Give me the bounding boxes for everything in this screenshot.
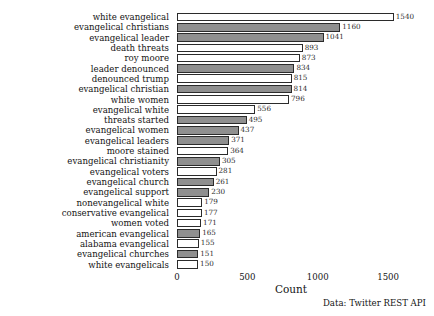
bar: [177, 33, 324, 42]
bar: [177, 229, 200, 238]
bar-value-label: 556: [257, 104, 271, 114]
bar-row: 177: [177, 208, 405, 218]
bar-row: 261: [177, 177, 405, 187]
bar-row: 165: [177, 229, 405, 239]
bar-row: 150: [177, 260, 405, 270]
bar-value-label: 165: [202, 228, 216, 238]
bar-value-label: 364: [230, 146, 244, 156]
y-axis-label: evangelical church: [0, 177, 172, 187]
bar: [177, 85, 292, 94]
bar: [177, 126, 239, 135]
y-axis-label: alabama evangelical: [0, 239, 172, 249]
x-axis-tick-label: 1000: [307, 272, 329, 282]
bar-value-label: 893: [305, 43, 319, 53]
bar-value-label: 371: [231, 135, 245, 145]
y-axis-label: evangelical leaders: [0, 136, 172, 146]
bar-row: 230: [177, 187, 405, 197]
bar-value-label: 281: [219, 166, 233, 176]
bar-row: 815: [177, 74, 405, 84]
bar-value-label: 171: [203, 218, 217, 228]
bar-row: 814: [177, 84, 405, 94]
bar-row: 371: [177, 136, 405, 146]
bar: [177, 219, 201, 228]
y-axis-label: evangelical christianity: [0, 156, 172, 166]
x-axis-title: Count: [177, 283, 405, 295]
bar: [177, 13, 394, 22]
bar: [177, 23, 340, 32]
bar-row: 893: [177, 43, 405, 53]
y-axis-label: evangelical churches: [0, 249, 172, 259]
y-axis-category-labels: white evangelicalevangelical christianse…: [0, 12, 172, 270]
bar-row: 834: [177, 64, 405, 74]
y-axis-label: white evangelical: [0, 12, 172, 22]
y-axis-label: threats started: [0, 115, 172, 125]
bar: [177, 209, 202, 218]
bar-row: 179: [177, 198, 405, 208]
bar-value-label: 150: [200, 259, 214, 269]
bar-value-label: 1160: [342, 22, 360, 32]
y-axis-label: evangelical support: [0, 187, 172, 197]
bar: [177, 54, 300, 63]
bar-value-label: 177: [204, 208, 218, 218]
bar-row: 305: [177, 156, 405, 166]
y-axis-label: white women: [0, 95, 172, 105]
bar-row: 796: [177, 95, 405, 105]
plot-area: 1540116010418938738348158147965564954373…: [177, 12, 405, 270]
bar: [177, 239, 199, 248]
x-axis-tick-label: 0: [174, 272, 179, 282]
bar-row: 364: [177, 146, 405, 156]
bar: [177, 74, 292, 83]
bar: [177, 95, 289, 104]
bar-rows: 1540116010418938738348158147965564954373…: [177, 12, 405, 270]
bar-row: 155: [177, 239, 405, 249]
y-axis-label: evangelical women: [0, 125, 172, 135]
bar-value-label: 230: [211, 187, 225, 197]
bar: [177, 147, 228, 156]
y-axis-label: denounced trump: [0, 74, 172, 84]
bar: [177, 116, 247, 125]
bar-value-label: 834: [296, 63, 310, 73]
bar-row: 1160: [177, 22, 405, 32]
x-axis-tick-label: 1500: [377, 272, 399, 282]
bar: [177, 157, 220, 166]
bar: [177, 260, 198, 269]
y-axis-label: american evangelical: [0, 229, 172, 239]
bar-row: 171: [177, 218, 405, 228]
bar-row: 1540: [177, 12, 405, 22]
y-axis-label: women voted: [0, 218, 172, 228]
y-axis-label: leader denounced: [0, 64, 172, 74]
y-axis-label: evangelical leader: [0, 33, 172, 43]
bar: [177, 44, 303, 53]
bar-value-label: 437: [241, 125, 255, 135]
bar-value-label: 814: [294, 84, 308, 94]
y-axis-label: evangelical christian: [0, 84, 172, 94]
y-axis-label: moore stained: [0, 146, 172, 156]
bar-row: 495: [177, 115, 405, 125]
bar-value-label: 495: [249, 115, 263, 125]
bar-chart: white evangelicalevangelical christianse…: [0, 0, 434, 316]
bar-row: 151: [177, 249, 405, 259]
bar-value-label: 305: [222, 156, 236, 166]
bar-value-label: 1041: [326, 32, 344, 42]
bar-value-label: 261: [216, 177, 230, 187]
y-axis-label: white evangelicals: [0, 260, 172, 270]
y-axis-label: evangelical voters: [0, 167, 172, 177]
bar-row: 873: [177, 53, 405, 63]
bar-value-label: 873: [302, 53, 316, 63]
bar-row: 556: [177, 105, 405, 115]
bar-value-label: 796: [291, 94, 305, 104]
bar: [177, 105, 255, 114]
y-axis-label: evangelical christians: [0, 22, 172, 32]
chart-source-caption: Data: Twitter REST API: [323, 298, 426, 308]
bar: [177, 64, 294, 73]
y-axis-label: roy moore: [0, 53, 172, 63]
y-axis-label: death threats: [0, 43, 172, 53]
y-axis-label: evangelical white: [0, 105, 172, 115]
bar-value-label: 815: [294, 73, 308, 83]
bar: [177, 188, 209, 197]
bar: [177, 250, 198, 259]
y-axis-label: conservative evangelical: [0, 208, 172, 218]
bar-row: 281: [177, 167, 405, 177]
bar: [177, 136, 229, 145]
bar-value-label: 179: [204, 197, 218, 207]
